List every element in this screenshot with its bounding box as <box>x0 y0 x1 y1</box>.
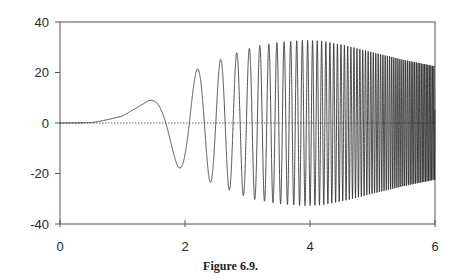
chart: 40200-20-40 0246 <box>0 0 461 278</box>
x-axis: 0246 <box>56 220 438 254</box>
figure-caption: Figure 6.9. <box>0 259 461 274</box>
y-axis: 40200-20-40 <box>30 15 60 232</box>
x-tick-label: 6 <box>431 239 438 254</box>
x-tick-label: 4 <box>306 239 313 254</box>
x-tick-label: 2 <box>181 239 188 254</box>
y-tick-label: -20 <box>30 166 49 181</box>
y-tick-label: 20 <box>35 65 49 80</box>
y-tick-label: -40 <box>30 217 49 232</box>
y-tick-label: 0 <box>42 116 49 131</box>
y-tick-label: 40 <box>35 15 49 30</box>
x-tick-label: 0 <box>56 239 63 254</box>
